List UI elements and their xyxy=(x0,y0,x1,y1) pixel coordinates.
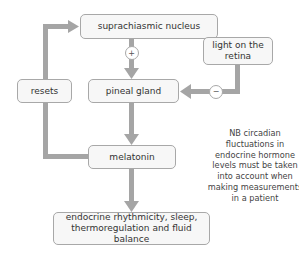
plus-sign-icon: + xyxy=(125,46,139,60)
node-label: pineal gland xyxy=(106,86,161,97)
node-resets: resets xyxy=(17,79,72,103)
clinical-note: NB circadian fluctuations in endocrine h… xyxy=(205,128,299,204)
sign-label: − xyxy=(213,87,220,96)
node-label: resets xyxy=(31,86,58,97)
node-label: suprachiasmic nucleus xyxy=(98,21,201,32)
minus-sign-icon: − xyxy=(209,85,223,99)
node-pineal-gland: pineal gland xyxy=(88,79,179,103)
node-label: melatonin xyxy=(109,152,154,163)
node-light-on-retina: light on the retina xyxy=(203,37,273,65)
node-label: light on the retina xyxy=(210,40,266,62)
node-melatonin: melatonin xyxy=(88,145,176,169)
node-label: endocrine rhythmicity, sleep, thermoregu… xyxy=(62,212,201,245)
node-outcomes: endocrine rhythmicity, sleep, thermoregu… xyxy=(53,212,210,245)
sign-label: + xyxy=(128,49,135,58)
node-suprachiasmic-nucleus: suprachiasmic nucleus xyxy=(80,14,218,39)
